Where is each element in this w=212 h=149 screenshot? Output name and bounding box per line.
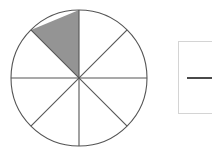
fraction-bar-icon (187, 77, 212, 79)
pie-slice-shaded (31, 10, 79, 78)
pie-svg (10, 9, 148, 147)
fraction-circle-model (10, 9, 148, 147)
worksheet-canvas (0, 0, 212, 149)
fraction-answer-box[interactable] (178, 41, 212, 114)
